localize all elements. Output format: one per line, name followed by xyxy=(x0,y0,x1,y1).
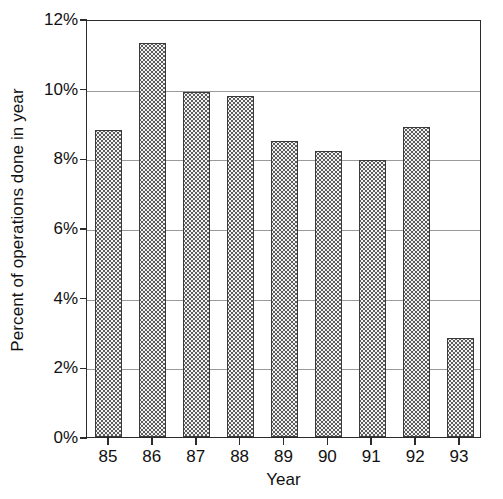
y-tick-label: 6% xyxy=(53,219,78,239)
x-tick-label: 90 xyxy=(318,447,337,467)
x-tick-mark xyxy=(283,438,285,445)
y-tick-label: 4% xyxy=(53,289,78,309)
x-tick-label: 89 xyxy=(274,447,293,467)
x-tick-label: 92 xyxy=(406,447,425,467)
x-tick-mark xyxy=(239,438,241,445)
bar xyxy=(227,96,254,437)
y-tick-label: 2% xyxy=(53,358,78,378)
x-tick-mark xyxy=(195,438,197,445)
bar xyxy=(183,92,210,437)
x-tick-mark xyxy=(414,438,416,445)
bar xyxy=(315,151,342,437)
plot-area xyxy=(86,20,481,438)
x-axis-ticks xyxy=(86,438,481,446)
x-tick-mark xyxy=(107,438,109,445)
x-tick-label: 91 xyxy=(362,447,381,467)
bar-chart: Percent of operations done in year 0%2%4… xyxy=(0,0,503,499)
y-tick-label: 0% xyxy=(53,428,78,448)
x-tick-label: 86 xyxy=(142,447,161,467)
x-tick-label: 93 xyxy=(450,447,469,467)
y-tick-label: 12% xyxy=(44,10,78,30)
bars-layer xyxy=(87,21,480,437)
x-tick-mark xyxy=(151,438,153,445)
bar xyxy=(359,160,386,437)
x-tick-mark xyxy=(327,438,329,445)
bar xyxy=(95,130,122,437)
x-tick-label: 88 xyxy=(230,447,249,467)
x-tick-mark xyxy=(458,438,460,445)
y-tick-label: 8% xyxy=(53,149,78,169)
x-tick-label: 87 xyxy=(186,447,205,467)
bar xyxy=(403,127,430,437)
y-tick-label: 10% xyxy=(44,80,78,100)
bar xyxy=(447,338,474,437)
y-axis-tick-labels: 0%2%4%6%8%10%12% xyxy=(30,0,86,499)
bar xyxy=(139,43,166,437)
x-tick-mark xyxy=(370,438,372,445)
x-axis-title: Year xyxy=(86,470,481,490)
x-tick-label: 85 xyxy=(98,447,117,467)
bar xyxy=(271,141,298,437)
y-axis-title-text: Percent of operations done in year xyxy=(8,88,28,351)
